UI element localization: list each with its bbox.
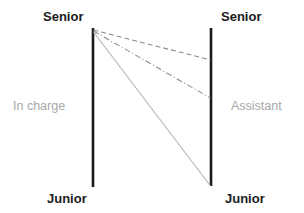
right-axis-top-label: Senior <box>221 10 261 23</box>
left-axis-bottom-label: Junior <box>47 192 87 205</box>
right-axis-side-label: Assistant <box>231 100 282 113</box>
supervision-relationship-diagram: Senior Senior Junior Junior In charge As… <box>0 0 304 213</box>
dashdot-connector-line <box>94 31 211 98</box>
left-axis-side-label: In charge <box>13 100 65 113</box>
left-axis-top-label: Senior <box>43 10 83 23</box>
solid-connector-line <box>94 32 211 186</box>
right-axis-bottom-label: Junior <box>225 192 265 205</box>
